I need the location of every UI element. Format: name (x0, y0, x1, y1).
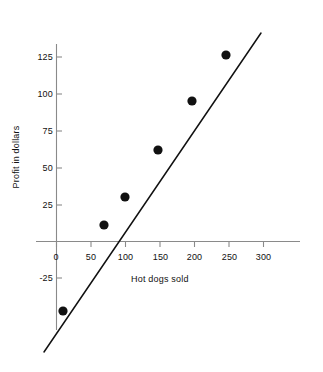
x-tick-label-100: 100 (113, 252, 138, 262)
y-tick-label-75: 75 (29, 126, 53, 136)
y-axis-title-wrapper: Profit in dollars (8, 112, 24, 202)
data-point (187, 96, 196, 105)
x-tick-label-150: 150 (148, 252, 173, 262)
trend-line (44, 33, 261, 352)
data-point (221, 50, 230, 59)
x-tick-label-250: 250 (217, 252, 242, 262)
x-tick-label-300: 300 (251, 252, 276, 262)
chart-container: 125 100 75 50 25 -25 0 50 100 150 200 25… (0, 0, 323, 372)
y-tick-label-neg25: -25 (25, 273, 53, 283)
x-axis-title: Hot dogs sold (131, 274, 189, 284)
y-tick-label-25: 25 (29, 200, 53, 210)
y-tick-label-100: 100 (29, 89, 53, 99)
y-tick-label-125: 125 (29, 52, 53, 62)
data-point (120, 192, 129, 201)
x-tick-label-50: 50 (79, 252, 103, 262)
y-axis-title: Profit in dollars (11, 126, 21, 189)
data-point (153, 145, 162, 154)
x-tick-label-200: 200 (182, 252, 207, 262)
y-axis-ticks (57, 57, 63, 278)
data-point (99, 220, 108, 229)
y-tick-label-50: 50 (29, 163, 53, 173)
x-axis-ticks (57, 242, 264, 248)
x-tick-label-0: 0 (44, 252, 68, 262)
data-point (58, 306, 67, 315)
